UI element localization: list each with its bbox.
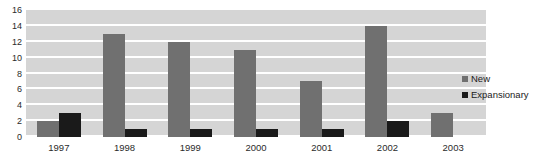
- x-axis-tick-label: 2000: [223, 142, 289, 154]
- bar-group: [234, 10, 278, 137]
- bar-group: [365, 10, 409, 137]
- bar-expansionary-2001: [322, 129, 344, 137]
- bar-group: [300, 10, 344, 137]
- bar-group: [168, 10, 212, 137]
- plot-area: [26, 10, 486, 137]
- bar-expansionary-1997: [59, 113, 81, 137]
- bar-expansionary-1999: [190, 129, 212, 137]
- x-axis-tick-label: 1998: [92, 142, 158, 154]
- bar-new-2000: [234, 50, 256, 137]
- bar-expansionary-2000: [256, 129, 278, 137]
- legend-label: Expansionary: [471, 90, 529, 100]
- bar-chart: 1614121086420 19971998199920002001200220…: [0, 0, 538, 161]
- chart-title-clipped: [26, 0, 486, 2]
- bar-new-2003: [431, 113, 453, 137]
- legend-label: New: [471, 74, 490, 84]
- bar-expansionary-2002: [387, 121, 409, 137]
- y-axis-tick-label: 6: [0, 85, 22, 94]
- legend-item[interactable]: New: [462, 71, 538, 87]
- x-axis: 1997199819992000200120022003: [26, 142, 486, 156]
- x-axis-tick-label: 2001: [289, 142, 355, 154]
- bar-new-1997: [37, 121, 59, 137]
- bar-new-1998: [103, 34, 125, 137]
- chart-legend: NewExpansionary: [462, 71, 538, 103]
- y-axis-tick-label: 0: [0, 133, 22, 142]
- bar-group: [37, 10, 81, 137]
- legend-item[interactable]: Expansionary: [462, 87, 538, 103]
- bar-new-2001: [300, 81, 322, 137]
- y-axis-tick-label: 4: [0, 101, 22, 110]
- x-axis-tick-label: 1997: [26, 142, 92, 154]
- y-axis-tick-label: 2: [0, 117, 22, 126]
- bar-group: [103, 10, 147, 137]
- y-axis: 1614121086420: [0, 5, 22, 137]
- x-axis-tick-label: 2002: [355, 142, 421, 154]
- y-axis-tick-label: 8: [0, 70, 22, 79]
- x-axis-tick-label: 2003: [420, 142, 486, 154]
- bar-new-2002: [365, 26, 387, 137]
- bar-new-1999: [168, 42, 190, 137]
- bar-expansionary-1998: [125, 129, 147, 137]
- legend-swatch-icon: [462, 92, 468, 98]
- y-axis-tick-label: 16: [0, 6, 22, 15]
- y-axis-tick-label: 12: [0, 38, 22, 47]
- y-axis-tick-label: 10: [0, 54, 22, 63]
- y-axis-tick-label: 14: [0, 22, 22, 31]
- legend-swatch-icon: [462, 76, 468, 82]
- x-axis-tick-label: 1999: [157, 142, 223, 154]
